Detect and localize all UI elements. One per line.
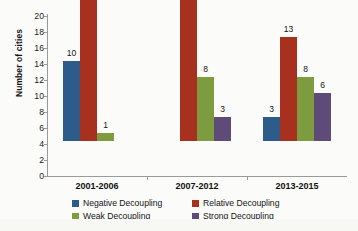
bar-slot-weak: 8 [197,0,214,141]
scan-artifact-band [0,219,358,231]
bar-slot-negative: 3 [263,0,280,141]
bar-group-2013-2015: 3 13 8 6 2013-2015 [247,0,347,196]
bar-value-label: 8 [203,65,208,74]
x-axis-category-label: 2013-2015 [247,181,347,191]
y-tick-14: 14 [22,60,44,69]
bar-slot-relative: 19 [180,0,197,141]
bar-group-2001-2006: 10 19 1 2001-2006 [47,0,147,196]
bar-slot-strong [114,0,131,141]
bar-strong-decoupling [314,93,331,141]
bar-strong-decoupling [214,117,231,141]
bar-negative-decoupling [263,117,280,141]
bar-relative-decoupling [80,0,97,141]
legend-label: Relative Decoupling [203,199,279,208]
bar-weak-decoupling [297,77,314,141]
legend-swatch-icon [72,200,79,207]
bar-relative-decoupling [280,37,297,141]
x-axis-category-label: 2001-2006 [47,181,147,191]
bar-value-label: 3 [220,105,225,114]
legend-label: Negative Decoupling [83,199,162,208]
y-axis-ticks: 20 18 16 14 12 10 8 6 4 2 0 [18,0,44,231]
bar-negative-decoupling [63,61,80,141]
bar-group-bars: 19 8 3 [147,0,247,141]
y-tick-6: 6 [22,124,44,133]
bar-value-label: 13 [284,25,293,34]
bar-slot-relative: 19 [80,0,97,141]
y-tick-12: 12 [22,76,44,85]
y-tick-2: 2 [22,156,44,165]
bar-value-label: 8 [303,65,308,74]
bar-relative-decoupling [180,0,197,141]
bar-slot-negative: 10 [63,0,80,141]
bar-slot-relative: 13 [280,0,297,141]
y-tick-16: 16 [22,44,44,53]
bar-weak-decoupling [197,77,214,141]
bar-group-2007-2012: 19 8 3 2007-2012 [147,0,247,196]
y-tick-20: 20 [22,12,44,21]
bar-value-label: 6 [320,81,325,90]
bar-value-label: 3 [269,105,274,114]
y-tick-18: 18 [22,28,44,37]
bar-slot-strong: 3 [214,0,231,141]
bar-slot-negative [163,0,180,141]
bar-value-label: 10 [67,49,76,58]
bar-value-label: 1 [103,121,108,130]
bar-group-bars: 3 13 8 6 [247,0,347,141]
bar-weak-decoupling [97,133,114,141]
bar-slot-weak: 1 [97,0,114,141]
bar-chart: Number of cities 20 18 16 14 12 10 8 6 4… [0,0,358,231]
bar-slot-strong: 6 [314,0,331,141]
y-tick-10: 10 [22,92,44,101]
y-tick-8: 8 [22,108,44,117]
bar-group-bars: 10 19 1 [47,0,147,141]
legend-item-relative-decoupling[interactable]: Relative Decoupling [192,199,342,208]
legend-item-negative-decoupling[interactable]: Negative Decoupling [72,199,192,208]
y-tick-4: 4 [22,140,44,149]
bar-slot-weak: 8 [297,0,314,141]
x-axis-category-label: 2007-2012 [147,181,247,191]
y-tick-0: 0 [22,172,44,181]
legend-swatch-icon [192,200,199,207]
